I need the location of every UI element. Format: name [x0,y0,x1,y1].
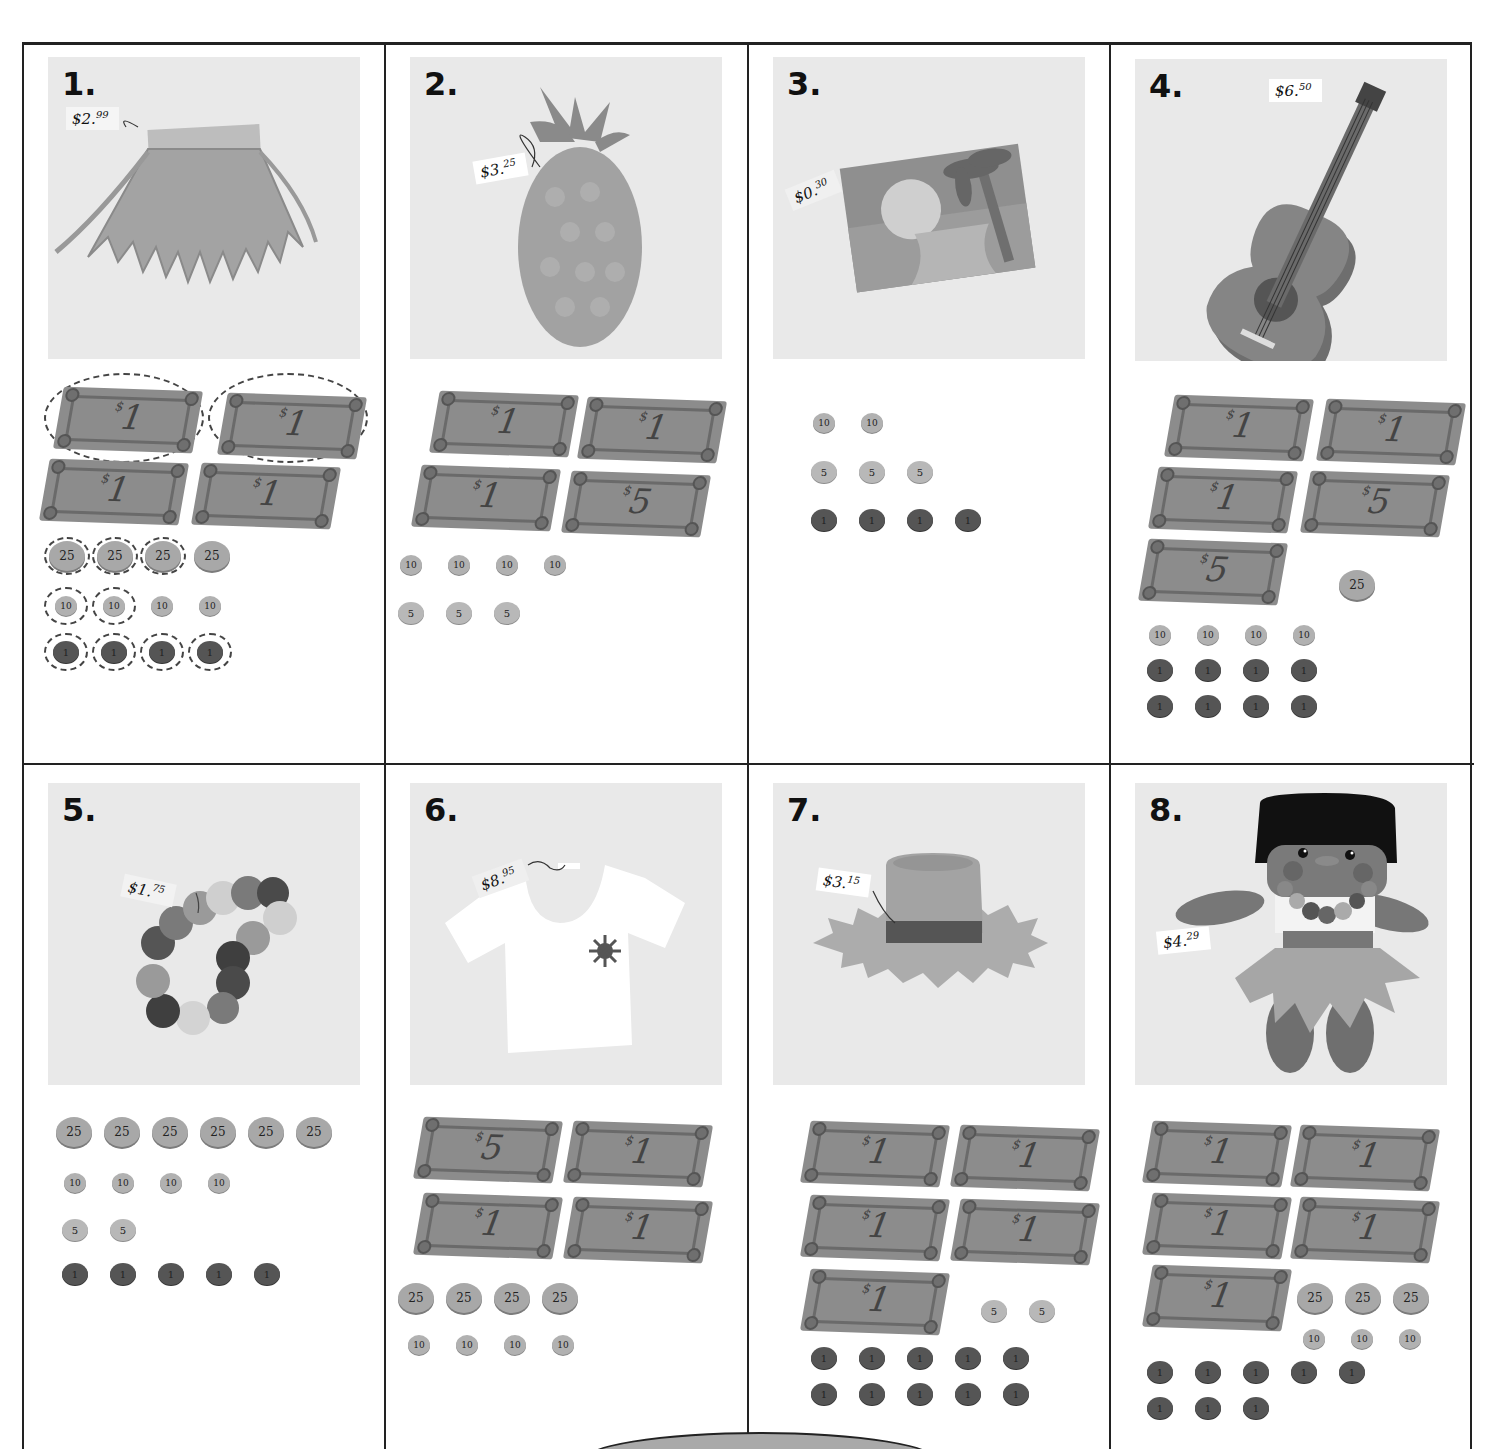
penny-coin: 1 [1291,1361,1317,1383]
straw-hat-icon [773,783,1085,1085]
penny-coin: 1 [811,509,837,531]
dollar-bill: $1 [1290,1125,1440,1192]
dollar-bill: $1 [563,1197,713,1264]
money-area: $5 $1 $1 $1 25 25 25 25 10 10 10 10 [386,1105,747,1449]
dollar-bill: $1 [1290,1197,1440,1264]
five-dollar-bill: $5 [1300,471,1450,538]
money-area: $1 $1 $1 $1 $1 5 5 1 1 1 1 1 1 1 1 1 1 [749,1105,1109,1449]
penny-coin: 1 [859,1383,885,1405]
penny-coin: 1 [811,1383,837,1405]
dollar-bill: $1 [429,391,579,458]
dime-coin: 10 [504,1335,526,1355]
problem-grid: 1. $2.99 $1 $1 $1 $1 25 25 [22,42,1472,1449]
nickel-coin: 5 [110,1219,136,1241]
penny-coin: 1 [1003,1383,1029,1405]
item-panel: 8. $4.29 [1135,783,1447,1085]
dollar-bill: $1 [191,463,341,530]
problem-cell-5: 5. $1.75 25 25 25 25 25 25 10 10 10 10 5… [24,765,386,1449]
item-panel: 3. $0.30 [773,57,1085,359]
item-panel: 1. $2.99 [48,57,360,359]
five-dollar-bill: $5 [561,471,711,538]
penny-coin: 1 [1195,695,1221,717]
problem-cell-2: 2. $3.25 $1 $1 $1 $5 10 10 10 10 5 5 5 [386,45,749,765]
penny-coin: 1 [1195,1361,1221,1383]
dollar-bill: $1 [800,1121,950,1188]
dollar-bill: $1 [1142,1121,1292,1188]
postcard-icon [773,57,1085,359]
dollar-bill: $1 [39,459,189,526]
money-area: $1 $1 $1 $5 10 10 10 10 5 5 5 [386,375,747,755]
penny-coin: 1 [907,509,933,531]
quarter-coin: 25 [104,1117,140,1147]
dime-coin: 10 [408,1335,430,1355]
penny-coin: 1 [1147,659,1173,681]
problem-cell-4: 4. $6.50 $1 $1 $1 $5 $5 [1111,45,1474,765]
penny-coin: 1 [254,1263,280,1285]
dime-coin: 10 [1399,1329,1421,1349]
dime-coin: 10 [448,555,470,575]
quarter-coin: 25 [446,1283,482,1313]
penny-coin: 1 [1339,1361,1365,1383]
dollar-bill: $1 [217,393,367,460]
quarter-coin: 25 [1393,1283,1429,1313]
problem-cell-7: 7. $3.15 $1 $1 $1 $1 $1 5 5 1 1 1 1 1 1 … [749,765,1111,1449]
quarter-coin: 25 [248,1117,284,1147]
money-area: 25 25 25 25 25 25 10 10 10 10 5 5 1 1 1 … [24,1105,384,1449]
t-shirt-icon [410,783,722,1085]
nickel-coin: 5 [981,1300,1007,1322]
nickel-coin: 5 [446,602,472,624]
quarter-coin: 25 [97,541,133,571]
dollar-bill: $1 [950,1199,1100,1266]
penny-coin: 1 [206,1263,232,1285]
dime-coin: 10 [813,413,835,433]
page-title-fragment [0,0,1493,6]
nickel-coin: 5 [1029,1300,1055,1322]
dollar-bill: $1 [1142,1265,1292,1332]
dime-coin: 10 [1149,625,1171,645]
dime-coin: 10 [456,1335,478,1355]
quarter-coin: 25 [398,1283,434,1313]
quarter-coin: 25 [296,1117,332,1147]
penny-coin: 1 [53,641,79,663]
penny-coin: 1 [1195,1397,1221,1419]
five-dollar-bill: $5 [1138,539,1288,606]
quarter-coin: 25 [194,541,230,571]
quarter-coin: 25 [152,1117,188,1147]
quarter-coin: 25 [145,541,181,571]
problem-cell-1: 1. $2.99 $1 $1 $1 $1 25 25 [24,45,386,765]
dime-coin: 10 [1245,625,1267,645]
money-area: $1 $1 $1 $1 25 25 25 25 10 10 10 10 1 1 … [24,375,384,755]
dime-coin: 10 [199,596,221,616]
penny-coin: 1 [1291,695,1317,717]
dime-coin: 10 [55,596,77,616]
dollar-bill: $1 [577,397,727,464]
dime-coin: 10 [861,413,883,433]
penny-coin: 1 [811,1347,837,1369]
penny-coin: 1 [955,509,981,531]
dime-coin: 10 [103,596,125,616]
dollar-bill: $1 [413,1193,563,1260]
penny-coin: 1 [1243,1397,1269,1419]
dime-coin: 10 [1293,625,1315,645]
grass-skirt-icon [48,57,360,359]
dime-coin: 10 [496,555,518,575]
price-tag: $6.50 [1269,79,1322,102]
nickel-coin: 5 [62,1219,88,1241]
dime-coin: 10 [1351,1329,1373,1349]
dime-coin: 10 [112,1173,134,1193]
nickel-coin: 5 [907,461,933,483]
problem-cell-6: 6. $8.95 $5 $1 $1 $1 25 25 25 25 10 10 1… [386,765,749,1449]
problem-cell-3: 3. $0.30 10 10 5 5 5 1 1 1 1 [749,45,1111,765]
ukulele-icon [1135,59,1447,361]
penny-coin: 1 [955,1383,981,1405]
penny-coin: 1 [1147,1361,1173,1383]
pineapple-icon [410,57,722,359]
penny-coin: 1 [907,1347,933,1369]
dollar-bill: $1 [563,1121,713,1188]
penny-coin: 1 [101,641,127,663]
penny-coin: 1 [859,509,885,531]
dollar-bill: $1 [800,1195,950,1262]
dollar-bill: $1 [800,1269,950,1336]
item-panel: 4. $6.50 [1135,59,1447,361]
penny-coin: 1 [158,1263,184,1285]
